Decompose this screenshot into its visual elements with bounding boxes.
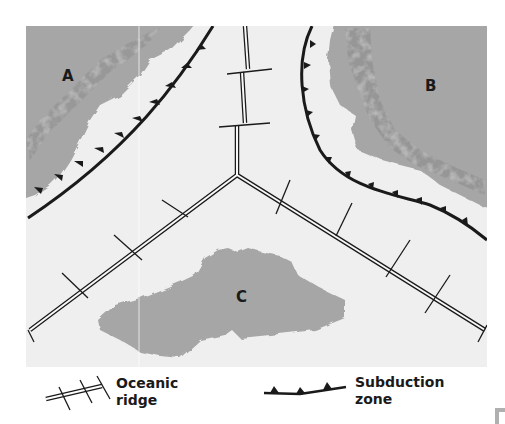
plate-boundary-diagram: A B C Oceanic ridge Subduction zo [0,0,505,424]
legend-oceanic-ridge: Oceanic ridge [46,375,178,410]
label-plate-a: A [62,67,74,85]
subduction-symbol-icon [264,382,346,394]
legend-oceanic-ridge-label-2: ridge [116,392,157,408]
legend-oceanic-ridge-label-1: Oceanic [116,375,178,391]
legend-subduction-label-2: zone [355,391,392,407]
legend-subduction-zone: Subduction zone [264,374,444,407]
label-plate-c: C [236,288,247,306]
label-plate-b: B [425,77,436,95]
legend-subduction-label-1: Subduction [355,374,444,390]
corner-crop-mark [497,410,505,424]
oceanic-ridge-symbol-icon [46,376,110,410]
